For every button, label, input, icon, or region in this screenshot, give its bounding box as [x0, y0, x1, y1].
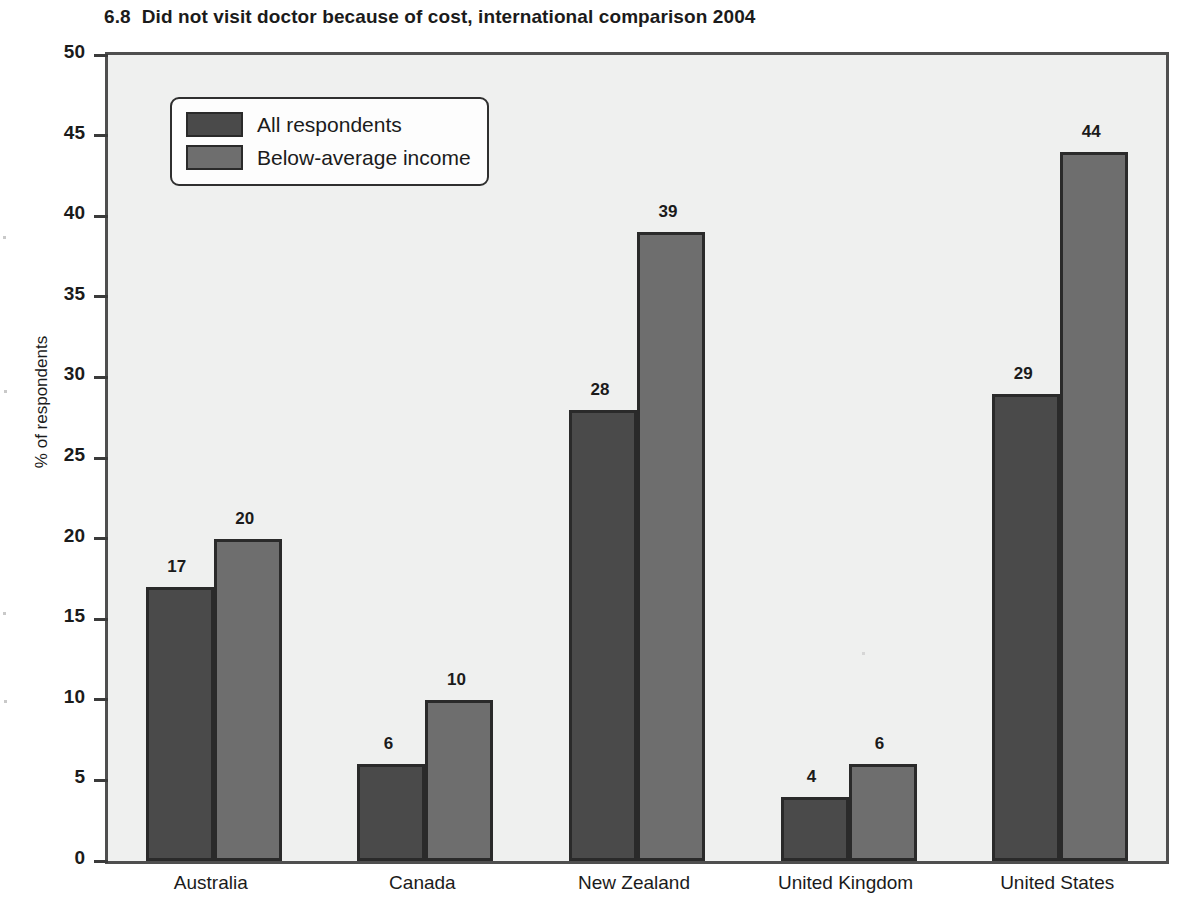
figure-title: 6.8Did not visit doctor because of cost,…	[104, 6, 756, 28]
y-axis-tick	[94, 295, 108, 298]
legend-item-0: All respondents	[186, 108, 471, 141]
y-axis-label: 30	[23, 363, 85, 385]
x-axis-label-australia: Australia	[174, 872, 248, 894]
bar-new-zealand-series-1	[637, 232, 705, 861]
chart-legend: All respondentsBelow-average income	[170, 97, 489, 186]
x-axis-label-new-zealand: New Zealand	[578, 872, 690, 894]
bar-value-label: 39	[659, 202, 678, 222]
y-axis-tick	[94, 215, 108, 218]
x-axis-label-canada: Canada	[389, 872, 456, 894]
y-axis-label: 0	[23, 847, 85, 869]
y-axis-label: 25	[23, 444, 85, 466]
bar-united-states-series-0	[992, 394, 1060, 861]
y-axis-title: % of respondents	[32, 307, 52, 497]
scan-artifact	[3, 236, 6, 239]
y-axis-tick	[94, 860, 108, 863]
y-axis-label: 40	[23, 202, 85, 224]
y-axis-tick	[94, 537, 108, 540]
bar-united-states-series-1	[1060, 152, 1128, 861]
y-axis-label: 50	[23, 41, 85, 63]
bar-value-label: 10	[447, 670, 466, 690]
y-axis-tick	[94, 779, 108, 782]
bar-value-label: 4	[807, 767, 816, 787]
y-axis-tick	[94, 376, 108, 379]
bar-value-label: 29	[1014, 364, 1033, 384]
y-axis-label: 45	[23, 122, 85, 144]
scan-artifact	[862, 652, 865, 655]
bar-united-kingdom-series-1	[849, 764, 917, 861]
scan-artifact	[4, 390, 7, 393]
bar-value-label: 28	[591, 380, 610, 400]
scan-artifact	[3, 612, 6, 615]
legend-swatch-icon	[186, 145, 243, 170]
y-axis-tick	[94, 457, 108, 460]
y-axis-tick	[94, 134, 108, 137]
legend-item-1: Below-average income	[186, 141, 471, 174]
figure-number: 6.8	[104, 6, 131, 27]
bar-united-kingdom-series-0	[781, 797, 849, 861]
y-axis-tick	[94, 54, 108, 57]
y-axis-label: 10	[23, 686, 85, 708]
y-axis-tick	[94, 698, 108, 701]
figure-title-text: Did not visit doctor because of cost, in…	[142, 6, 756, 27]
bar-value-label: 20	[235, 509, 254, 529]
bar-canada-series-0	[357, 764, 425, 861]
y-axis-tick	[94, 618, 108, 621]
y-axis-label: 5	[23, 766, 85, 788]
x-axis-label-united-states: United States	[1000, 872, 1114, 894]
legend-label: All respondents	[257, 113, 402, 137]
x-axis-label-united-kingdom: United Kingdom	[778, 872, 913, 894]
bar-new-zealand-series-0	[569, 410, 637, 861]
bar-australia-series-1	[214, 539, 282, 861]
y-axis-label: 20	[23, 525, 85, 547]
bar-value-label: 44	[1082, 122, 1101, 142]
bar-value-label: 17	[167, 557, 186, 577]
y-axis-label: 15	[23, 605, 85, 627]
bar-australia-series-0	[146, 587, 214, 861]
bar-value-label: 6	[384, 734, 393, 754]
legend-label: Below-average income	[257, 146, 471, 170]
scan-artifact	[4, 700, 7, 703]
legend-swatch-icon	[186, 112, 243, 137]
bar-value-label: 6	[875, 734, 884, 754]
bar-canada-series-1	[425, 700, 493, 861]
y-axis-label: 35	[23, 283, 85, 305]
